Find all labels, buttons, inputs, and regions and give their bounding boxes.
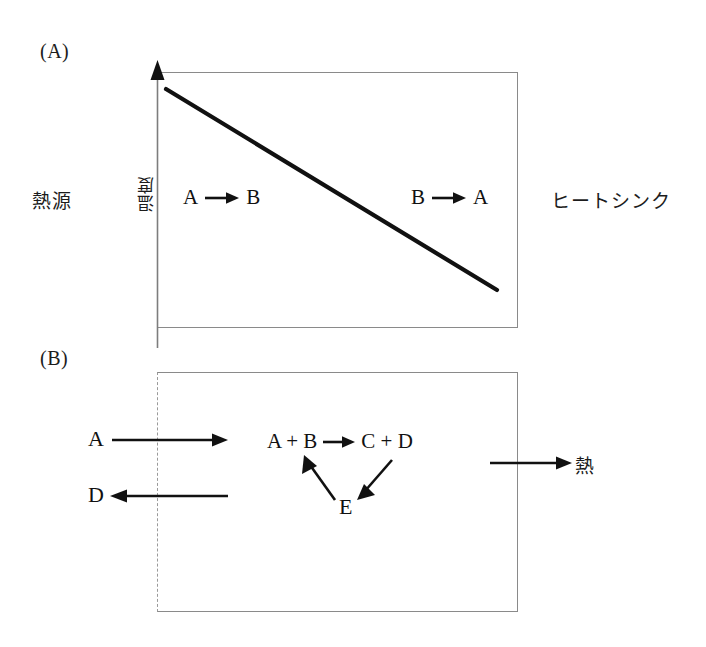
inlet-species-label: A bbox=[88, 426, 104, 452]
heat-out-label: 熱 bbox=[575, 451, 594, 478]
outlet-species-label: D bbox=[88, 482, 104, 508]
right-arrow-icon bbox=[432, 191, 466, 205]
panel-b-caption: (B) bbox=[40, 347, 68, 370]
outlet-left-arrow-icon bbox=[110, 488, 228, 504]
reaction-a-to-b: A B bbox=[183, 185, 260, 210]
reaction-equation: A + B C + D bbox=[267, 429, 413, 454]
reaction-b-to-a-reactant: B bbox=[411, 185, 425, 210]
reaction-b-to-a: B A bbox=[411, 185, 488, 210]
heat-source-label: 熱源 bbox=[32, 186, 72, 213]
y-axis-label: 温度 bbox=[134, 176, 159, 212]
right-arrow-icon bbox=[323, 435, 355, 449]
heat-sink-label: ヒートシンク bbox=[551, 186, 671, 213]
reaction-a-to-b-product: B bbox=[246, 185, 260, 210]
figure-root: (A) 熱源 温度 A B B A ヒー bbox=[0, 0, 706, 647]
reaction-b-to-a-product: A bbox=[473, 185, 488, 210]
panel-a-caption: (A) bbox=[40, 40, 69, 63]
reaction-products: C + D bbox=[361, 429, 413, 454]
right-arrow-icon bbox=[205, 191, 239, 205]
inlet-right-arrow-icon bbox=[112, 432, 228, 448]
reaction-a-to-b-reactant: A bbox=[183, 185, 198, 210]
heat-out-right-arrow-icon bbox=[490, 455, 572, 471]
catalyst-label: E bbox=[339, 494, 352, 520]
reaction-reactants: A + B bbox=[267, 429, 317, 454]
